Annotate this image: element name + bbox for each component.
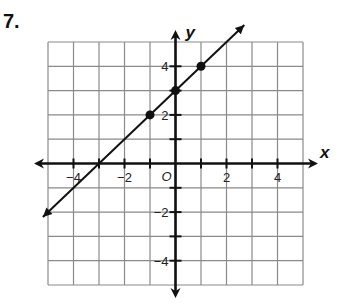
coordinate-graph: −4−22442−2−4Oxy [0,0,348,303]
origin-label: O [162,169,172,184]
x-axis-label: x [319,143,331,162]
data-point [197,62,206,71]
y-tick-label: 4 [161,59,168,74]
data-point [146,110,155,119]
x-tick-label: 4 [274,170,281,185]
x-tick-label: −2 [117,170,132,185]
tick-labels: −4−22442−2−4Oxy [66,23,331,269]
y-axis-label: y [185,23,197,42]
x-tick-label: 2 [223,170,230,185]
axes [34,30,318,298]
y-tick-label: 2 [161,108,168,123]
data-point [171,86,180,95]
y-tick-label: −4 [154,254,169,269]
y-tick-label: −2 [154,205,169,220]
